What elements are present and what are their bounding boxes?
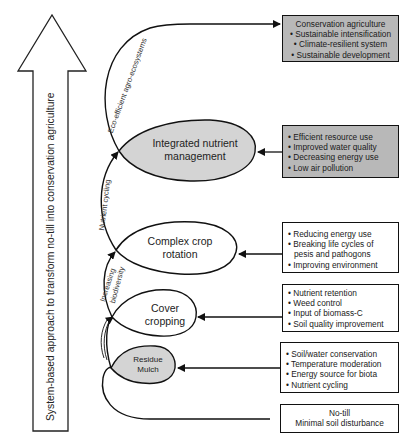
label-integrated-nutrient-management: Integrated nutrient management	[140, 137, 250, 163]
box-line2: Minimal soil disturbance	[286, 418, 393, 428]
stage-label-line1: Cover	[130, 302, 200, 315]
box-integrated-nutrient-management: Efficient resource use Improved water qu…	[282, 125, 399, 178]
stage-label-line1: Residue	[123, 355, 173, 365]
box-item: Temperature moderation	[286, 359, 393, 369]
stage-label-line1: Integrated nutrient	[140, 137, 250, 150]
box-item: Soil/water conservation	[286, 349, 393, 359]
box-no-till: No-till Minimal soil disturbance	[280, 404, 399, 433]
box-item: • Sustainable development	[288, 50, 393, 60]
stage-label-line2: management	[140, 150, 250, 163]
box-item: Low air pollution	[288, 163, 393, 173]
box-cover-cropping: Nutrient retention Weed control Input of…	[282, 284, 399, 332]
box-item: Improving environment	[288, 260, 393, 270]
label-residue-mulch: Residue Mulch	[123, 355, 173, 375]
box-complex-crop-rotation: Reducing energy use Breaking life cycles…	[282, 222, 399, 273]
box-item: Nutrient retention	[288, 288, 393, 298]
label-complex-crop-rotation: Complex crop rotation	[130, 235, 230, 261]
box-item: Weed control	[288, 298, 393, 308]
label-cover-cropping: Cover cropping	[130, 302, 200, 328]
stage-label-line2: rotation	[130, 248, 230, 261]
box-item: Improved water quality	[288, 142, 393, 152]
box-item: • Sustainable intensification	[288, 29, 393, 39]
box-item: Efficient resource use	[288, 132, 393, 142]
box-item: Nutrient cycling	[286, 380, 393, 390]
box-line1: No-till	[286, 408, 393, 418]
vertical-arrow-label: System-based approach to transform no-ti…	[45, 92, 56, 421]
box-item: Reducing energy use	[288, 229, 393, 239]
stage-label-line2: cropping	[130, 315, 200, 328]
box-item: Soil quality improvement	[288, 319, 393, 329]
box-title: Conservation agriculture	[288, 19, 393, 29]
box-conservation-agriculture: Conservation agriculture • Sustainable i…	[282, 15, 399, 62]
box-item: Decreasing energy use	[288, 152, 393, 162]
box-item: Input of biomass-C	[288, 308, 393, 318]
stage-label-line2: Mulch	[123, 365, 173, 375]
stage-label-line1: Complex crop	[130, 235, 230, 248]
box-item: Breaking life cycles of pesis and pathog…	[288, 239, 393, 259]
box-residue-mulch: Soil/water conservation Temperature mode…	[280, 342, 399, 393]
box-item: • Climate-resilient system	[288, 39, 393, 49]
box-item: Energy source for biota	[286, 369, 393, 379]
